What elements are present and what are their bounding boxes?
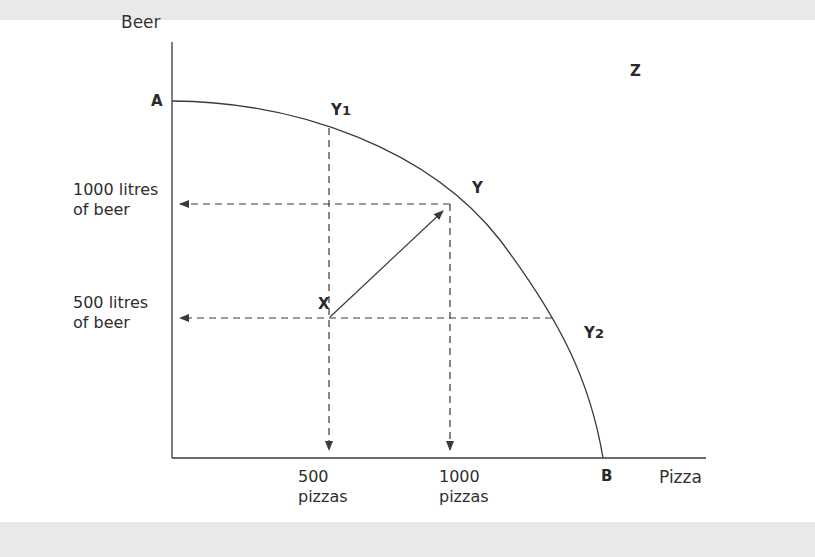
point-a-label: A	[151, 92, 163, 110]
point-y2-label: Y2	[584, 324, 604, 343]
y-axis-label: Beer	[121, 12, 161, 32]
x-axis-label: Pizza	[659, 467, 702, 487]
point-y-label: Y	[472, 179, 483, 197]
point-x-label: X	[318, 295, 330, 313]
ppf-curve	[172, 101, 603, 458]
y-tick-500: 500 litres of beer	[73, 293, 148, 333]
y-tick-1000: 1000 litres of beer	[73, 180, 158, 220]
x-tick-500: 500 pizzas	[298, 467, 348, 507]
point-y1-label: Y1	[331, 101, 351, 120]
point-b-label: B	[601, 467, 612, 485]
point-z-label: Z	[630, 62, 641, 80]
arrow-x-to-y	[330, 211, 443, 317]
x-tick-1000: 1000 pizzas	[439, 467, 489, 507]
